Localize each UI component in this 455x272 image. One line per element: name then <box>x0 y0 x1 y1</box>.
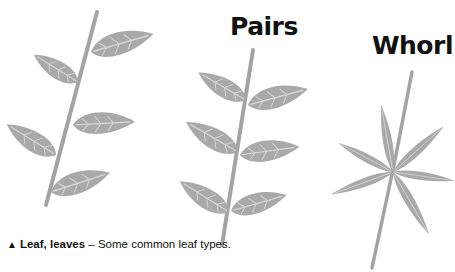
whorl-leaf-diagram <box>329 72 455 268</box>
triangle-marker-icon: ▲ <box>7 239 17 250</box>
caption-separator: – <box>85 238 98 250</box>
alternate-leaf-diagram <box>1 12 156 205</box>
caption-description: Some common leaf types. <box>98 238 231 250</box>
whorl-heading: Whorl <box>372 33 453 58</box>
pairs-heading: Pairs <box>230 14 298 39</box>
caption-term: Leaf, leaves <box>20 238 85 250</box>
paired-leaf-diagram <box>174 50 310 245</box>
figure-caption: ▲Leaf, leaves – Some common leaf types. <box>7 238 231 250</box>
